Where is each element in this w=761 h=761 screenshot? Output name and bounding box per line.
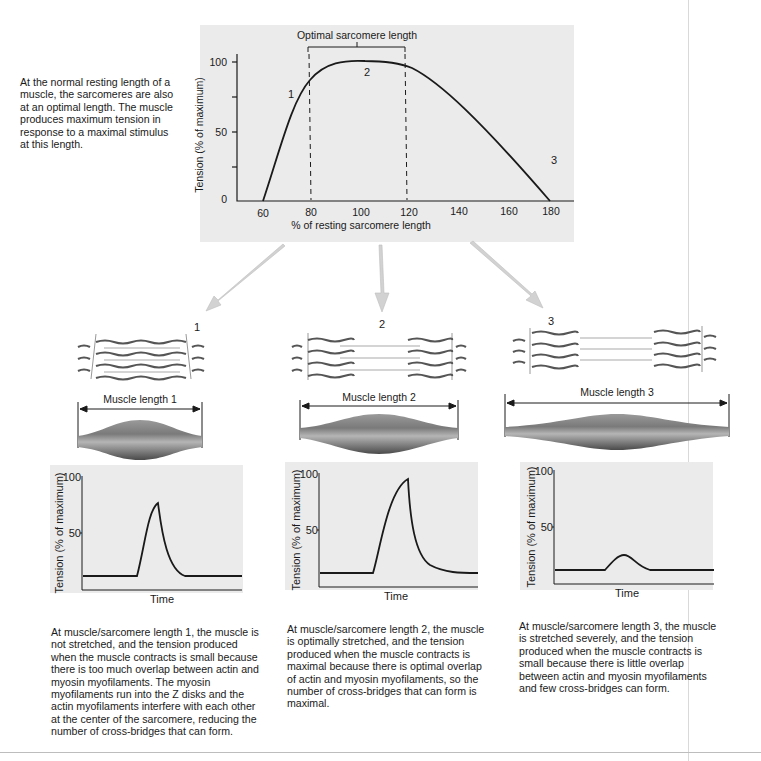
svg-text:50: 50 (541, 521, 553, 533)
caption-2: At muscle/sarcomere length 2, the muscle… (287, 623, 487, 710)
caption-1: At muscle/sarcomere length 1, the muscle… (51, 626, 261, 738)
svg-text:Tension (% of maximum): Tension (% of maximum) (525, 466, 537, 587)
page-bottom-rule (0, 752, 761, 753)
svg-text:100: 100 (300, 468, 318, 480)
svg-text:Tension (% of maximum): Tension (% of maximum) (53, 472, 65, 593)
tension-chart-1: 100 50 Tension (% of maximum) Time (53, 471, 242, 605)
svg-text:50: 50 (69, 527, 81, 539)
tension-chart-2: 100 50 Tension (% of maximum) Time (290, 468, 478, 602)
svg-text:Time: Time (615, 587, 639, 599)
tension-chart-3: 100 50 Tension (% of maximum) Time (525, 465, 714, 599)
svg-text:50: 50 (306, 524, 318, 536)
svg-text:100: 100 (63, 471, 81, 483)
svg-text:100: 100 (535, 465, 553, 477)
svg-text:Tension (% of maximum): Tension (% of maximum) (290, 469, 302, 590)
svg-text:Time: Time (150, 593, 174, 605)
svg-text:Time: Time (384, 590, 408, 602)
caption-3: At muscle/sarcomere length 3, the muscle… (519, 620, 724, 694)
